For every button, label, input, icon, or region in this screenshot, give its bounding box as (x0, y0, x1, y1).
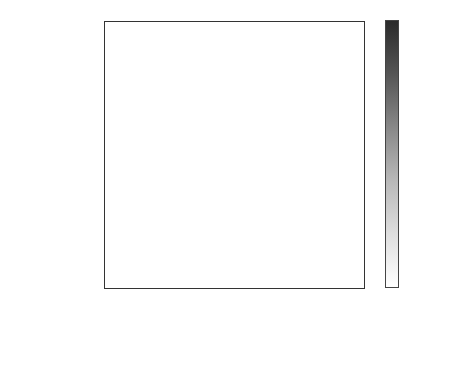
confusion-matrix (104, 21, 365, 289)
confusion-matrix-figure (0, 0, 452, 378)
colorbar (385, 20, 399, 288)
